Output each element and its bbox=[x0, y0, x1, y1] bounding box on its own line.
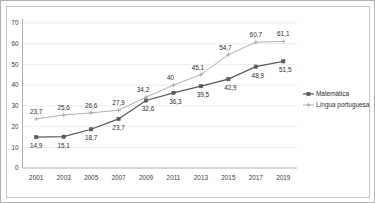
x-axis-tick-label: 2011 bbox=[167, 174, 181, 181]
legend-item-label[interactable]: Língua portuguesa bbox=[316, 101, 370, 109]
y-axis-tick-label: 50 bbox=[11, 61, 19, 68]
x-axis-tick-label: 2015 bbox=[221, 174, 236, 181]
x-axis-tick-label: 2019 bbox=[276, 174, 291, 181]
data-point-label: 40 bbox=[167, 74, 175, 81]
y-axis-tick-label: 30 bbox=[11, 102, 19, 109]
data-point-label: 42,9 bbox=[224, 84, 237, 91]
y-axis-tick-label: 20 bbox=[11, 123, 19, 130]
data-point-label: 34,2 bbox=[137, 86, 150, 93]
x-axis-tick-labels: 2001200320052007200920112013201520172019 bbox=[29, 174, 291, 181]
series-lines bbox=[34, 39, 285, 139]
legend-item-label[interactable]: Matemática bbox=[316, 90, 349, 97]
data-point-label: 32,6 bbox=[142, 105, 155, 112]
data-point-labels: 14,915,118,723,732,636,339,542,948,951,5… bbox=[30, 30, 292, 149]
data-point-marker bbox=[144, 99, 147, 102]
y-axis-tick-label: 10 bbox=[11, 144, 19, 151]
y-axis-tick-label: 60 bbox=[11, 40, 19, 47]
data-point-label: 36,3 bbox=[169, 98, 182, 105]
data-point-label: 27,9 bbox=[112, 99, 125, 106]
data-point-label: 18,7 bbox=[85, 134, 98, 141]
y-axis-tick-label: 40 bbox=[11, 81, 19, 88]
data-point-label: 25,6 bbox=[57, 104, 70, 111]
y-axis-tick-label: 0 bbox=[15, 164, 19, 171]
data-point-marker bbox=[282, 60, 285, 63]
data-point-label: 45,1 bbox=[192, 64, 205, 71]
series-line bbox=[36, 61, 283, 137]
x-axis-tick-label: 2003 bbox=[57, 174, 72, 181]
data-point-marker bbox=[227, 77, 230, 80]
data-point-label: 54,7 bbox=[219, 44, 232, 51]
data-point-label: 23,7 bbox=[30, 108, 43, 115]
data-point-marker bbox=[89, 128, 92, 131]
data-point-marker bbox=[117, 117, 120, 120]
data-point-marker bbox=[62, 135, 65, 138]
data-point-label: 15,1 bbox=[57, 142, 70, 149]
chart-legend[interactable]: MatemáticaLíngua portuguesa bbox=[303, 90, 370, 109]
data-point-label: 48,9 bbox=[252, 72, 265, 79]
data-point-label: 39,5 bbox=[197, 91, 210, 98]
x-axis-tick-label: 2009 bbox=[139, 174, 154, 181]
data-point-marker bbox=[254, 65, 257, 68]
data-point-marker bbox=[199, 84, 202, 87]
data-point-marker bbox=[307, 92, 310, 95]
data-point-marker bbox=[35, 135, 38, 138]
data-point-marker bbox=[172, 91, 175, 94]
chart-frame: 010203040506070 200120032005200720092011… bbox=[0, 0, 375, 203]
x-axis-tick-label: 2007 bbox=[111, 174, 126, 181]
series-line bbox=[36, 41, 283, 118]
line-chart: 010203040506070 200120032005200720092011… bbox=[1, 1, 375, 203]
data-point-label: 26,6 bbox=[85, 102, 98, 109]
x-axis-tick-label: 2001 bbox=[29, 174, 44, 181]
data-point-label: 23,7 bbox=[112, 124, 125, 131]
data-point-label: 61,1 bbox=[277, 30, 290, 37]
y-axis-tick-labels: 010203040506070 bbox=[11, 19, 19, 171]
y-axis-tick-label: 70 bbox=[11, 19, 19, 26]
data-point-label: 14,9 bbox=[30, 142, 43, 149]
x-axis-tick-label: 2013 bbox=[194, 174, 209, 181]
x-axis-tick-label: 2017 bbox=[249, 174, 264, 181]
data-point-label: 60,7 bbox=[250, 31, 263, 38]
data-point-label: 51,5 bbox=[279, 66, 292, 73]
x-axis-tick-label: 2005 bbox=[84, 174, 99, 181]
